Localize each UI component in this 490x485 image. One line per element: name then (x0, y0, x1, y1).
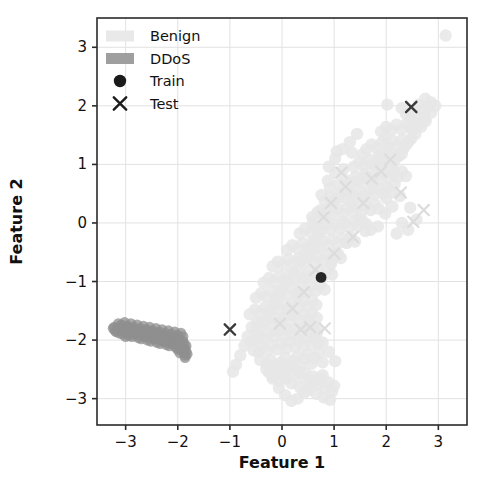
legend-label: Test (149, 96, 179, 112)
y-tick-label: −1 (65, 273, 87, 291)
data-point (357, 148, 369, 160)
data-point (118, 326, 129, 337)
data-point (316, 369, 328, 381)
scatter-plot: −3−2−10123−3−2−10123Feature 1Feature 2Be… (0, 0, 490, 485)
data-point (406, 123, 418, 135)
data-point (400, 170, 412, 182)
data-point (358, 168, 370, 180)
data-point (380, 192, 392, 204)
data-point (404, 202, 416, 214)
data-point (346, 197, 358, 209)
y-tick-label: 2 (77, 97, 87, 115)
y-tick-label: 3 (77, 38, 87, 56)
y-axis-label: Feature 2 (7, 178, 26, 264)
chart-svg: −3−2−10123−3−2−10123Feature 1Feature 2Be… (0, 0, 490, 485)
data-point (390, 227, 402, 239)
data-point (323, 161, 335, 173)
data-point (388, 178, 400, 190)
y-tick-label: 0 (77, 214, 87, 232)
x-axis-label: Feature 1 (239, 453, 325, 472)
data-point (368, 180, 380, 192)
data-point (256, 315, 268, 327)
data-point (316, 356, 328, 368)
y-tick-label: −3 (65, 390, 87, 408)
x-tick-label: −2 (167, 433, 189, 451)
data-point (310, 299, 322, 311)
x-tick-label: 0 (277, 433, 287, 451)
legend-swatch (106, 53, 134, 64)
data-point (108, 323, 119, 334)
series-train (316, 272, 327, 283)
data-point (337, 216, 349, 228)
data-point (439, 29, 451, 41)
data-point (294, 255, 306, 267)
data-point (322, 175, 334, 187)
data-point (429, 100, 441, 112)
data-point (319, 284, 331, 296)
plot-background (0, 0, 490, 485)
data-point (329, 355, 341, 367)
figure-root: −3−2−10123−3−2−10123Feature 1Feature 2Be… (0, 0, 490, 485)
x-tick-label: −1 (219, 433, 241, 451)
data-point (308, 243, 320, 255)
y-tick-label: 1 (77, 155, 87, 173)
data-point (227, 366, 239, 378)
data-point (379, 207, 391, 219)
x-tick-label: 3 (434, 433, 444, 451)
x-tick-label: 1 (329, 433, 339, 451)
data-point (325, 258, 337, 270)
legend-label: Benign (150, 28, 200, 44)
data-point (359, 225, 371, 237)
data-point (328, 380, 340, 392)
x-tick-label: −3 (115, 433, 137, 451)
data-point (316, 272, 327, 283)
y-tick-label: −2 (65, 331, 87, 349)
data-point (326, 268, 338, 280)
legend-swatch (106, 31, 134, 42)
data-point (381, 98, 393, 110)
data-point (353, 213, 365, 225)
legend-label: Train (149, 73, 185, 89)
data-point (287, 266, 299, 278)
x-tick-label: 2 (381, 433, 391, 451)
data-point (291, 291, 303, 303)
legend-marker-circle (114, 75, 126, 87)
data-point (379, 131, 391, 143)
data-point (180, 352, 191, 363)
data-point (269, 295, 281, 307)
legend-label: DDoS (150, 51, 190, 67)
